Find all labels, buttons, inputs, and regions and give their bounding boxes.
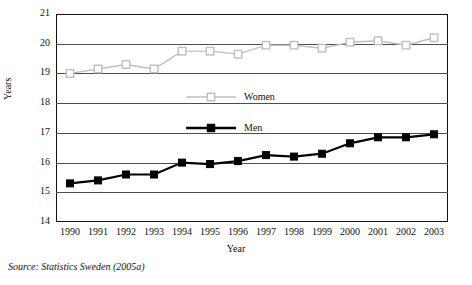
data-point-men (179, 159, 186, 166)
data-point-men (235, 158, 242, 165)
data-point-men (263, 152, 270, 159)
data-point-women (122, 61, 130, 69)
legend-label-women: Women (244, 91, 275, 102)
y-axis-label: Years (2, 78, 13, 100)
data-point-women (318, 44, 326, 52)
data-point-women (290, 42, 298, 50)
data-point-men (67, 180, 74, 187)
x-axis-label: Year (0, 243, 472, 254)
data-point-men (403, 134, 410, 141)
legend-marker (207, 93, 215, 101)
data-point-men (347, 140, 354, 147)
data-point-women (234, 50, 242, 58)
data-point-women (374, 37, 382, 45)
data-point-men (123, 171, 130, 178)
data-point-men (95, 177, 102, 184)
data-point-women (262, 42, 270, 50)
data-point-men (431, 131, 438, 138)
data-point-men (207, 161, 214, 168)
data-point-women (178, 47, 186, 55)
data-point-men (151, 171, 158, 178)
data-point-women (346, 39, 354, 47)
data-point-women (66, 70, 74, 78)
data-point-men (291, 153, 298, 160)
data-point-women (402, 42, 410, 50)
data-point-women (150, 65, 158, 73)
legend-marker (207, 124, 215, 132)
data-point-women (430, 34, 438, 42)
data-point-women (206, 47, 214, 55)
legend-label-men: Men (244, 122, 262, 133)
source-note: Source: Statistics Sweden (2005a) (8, 261, 145, 272)
data-point-men (319, 150, 326, 157)
chart-container: 1415161718192021 19901991199219931994199… (0, 0, 472, 285)
data-point-men (375, 134, 382, 141)
data-point-women (94, 65, 102, 73)
